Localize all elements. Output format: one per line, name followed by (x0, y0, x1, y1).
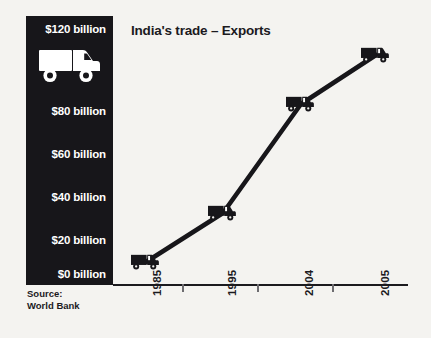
truck-icon (39, 46, 102, 84)
y-tick-label-120: $120 billion (45, 24, 106, 35)
exports-series (113, 16, 411, 278)
data-point-marker-1995 (208, 206, 236, 221)
x-axis-label-2005: 2005 (379, 270, 391, 296)
source-note: Source: World Bank (27, 288, 80, 311)
plot-area: India's trade – Exports (113, 16, 411, 278)
y-axis-panel: $120 billion (26, 16, 113, 285)
x-axis-tick-3 (332, 284, 334, 292)
x-axis-label-1995: 1995 (226, 270, 238, 296)
x-axis-tick-2 (257, 284, 259, 292)
source-line-1: Source: (27, 288, 80, 300)
chart-figure: $120 billion (0, 0, 431, 338)
y-tick-label-80: $80 billion (51, 106, 106, 117)
source-line-2: World Bank (27, 300, 80, 312)
x-axis-label-1985: 1985 (151, 270, 163, 296)
y-tick-label-0: $0 billion (58, 269, 106, 280)
y-tick-label-20: $20 billion (51, 235, 106, 246)
data-point-marker-2005 (361, 48, 389, 63)
x-axis-tick-1 (182, 284, 184, 292)
y-tick-label-40: $40 billion (51, 192, 106, 203)
x-axis-label-2004: 2004 (303, 270, 315, 296)
y-tick-label-60: $60 billion (51, 149, 106, 160)
series-line (146, 55, 376, 262)
